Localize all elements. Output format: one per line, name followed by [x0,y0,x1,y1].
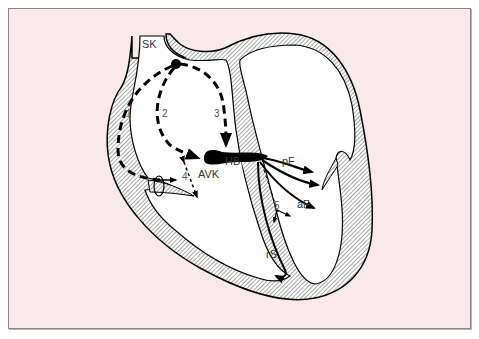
label-pathway-1: 1 [126,108,132,119]
label-his-bundle: HB [225,155,240,167]
label-posterior-fascicle: pF [282,155,295,167]
label-av-node: AVK [198,168,220,180]
heart-diagram: SK AVK HB pF aF rS 1 2 3 4 5 [0,0,479,339]
label-pathway-4: 4 [182,171,188,182]
label-pathway-5: 5 [274,200,280,211]
label-pathway-3: 3 [214,108,220,119]
label-right-bundle: rS [266,248,277,260]
label-anterior-fascicle: aF [297,198,310,210]
label-pathway-2: 2 [162,108,168,119]
label-sinus-node: SK [142,38,157,50]
